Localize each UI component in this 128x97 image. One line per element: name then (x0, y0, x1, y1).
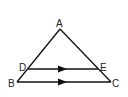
parallel-arrow-BC (58, 79, 67, 86)
label-D: D (19, 62, 26, 73)
label-E: E (100, 62, 107, 73)
side-AC (60, 29, 111, 82)
parallel-arrow-DE (58, 66, 67, 73)
label-B: B (8, 78, 15, 89)
label-A: A (56, 18, 63, 29)
label-C: C (112, 78, 119, 89)
triangle-diagram: A D E B C (0, 0, 128, 97)
side-AB (17, 29, 60, 82)
